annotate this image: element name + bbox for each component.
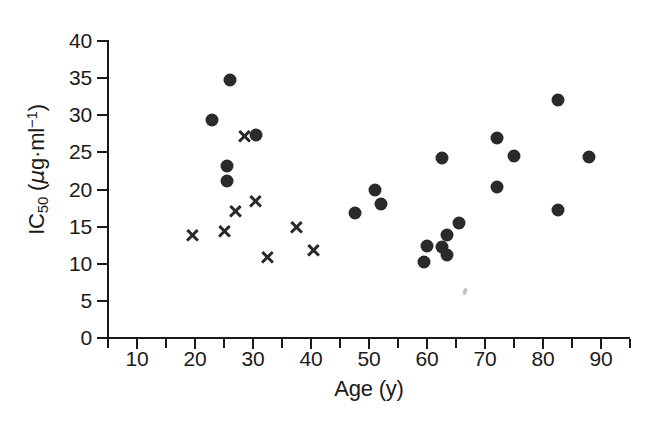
- y-tick-label-40: 40: [48, 30, 92, 51]
- plot-data-area: [108, 41, 630, 338]
- data-point-filled-circle: [441, 248, 454, 261]
- x-minor-tick-15: [165, 339, 167, 348]
- x-tick-label-90: 90: [578, 348, 624, 369]
- x-tick-label-60: 60: [404, 348, 450, 369]
- x-tick-label-10: 10: [114, 348, 160, 369]
- y-tick-40: [97, 40, 107, 42]
- x-tick-label-40: 40: [288, 348, 334, 369]
- data-point-filled-circle: [490, 180, 503, 193]
- y-axis-title-main: IC: [24, 213, 49, 235]
- y-tick-10: [97, 263, 107, 265]
- x-minor-tick-55: [397, 339, 399, 348]
- x-minor-tick-25: [223, 339, 225, 348]
- data-point-filled-circle: [220, 174, 233, 187]
- y-axis-title-mu: μ: [24, 170, 49, 184]
- y-axis-title-subscript: 50: [34, 197, 51, 213]
- data-point-cross: [237, 129, 252, 144]
- data-point-filled-circle: [441, 228, 454, 241]
- data-point-filled-circle: [583, 150, 596, 163]
- data-point-filled-circle: [220, 159, 233, 172]
- data-point-filled-circle: [223, 73, 236, 86]
- y-tick-label-25: 25: [48, 141, 92, 162]
- x-tick-label-50: 50: [346, 348, 392, 369]
- y-axis-title: IC50 (μg·ml−1): [20, 45, 55, 295]
- y-tick-label-35: 35: [48, 67, 92, 88]
- y-tick-label-5: 5: [48, 290, 92, 311]
- data-point-filled-circle: [435, 151, 448, 164]
- data-point-cross: [185, 228, 200, 243]
- y-axis-title-units: g·ml: [24, 128, 49, 170]
- x-tick-label-80: 80: [520, 348, 566, 369]
- data-point-cross: [217, 224, 232, 239]
- x-minor-tick-5: [107, 339, 109, 348]
- data-point-filled-circle: [551, 204, 564, 217]
- data-point-cross: [289, 220, 304, 235]
- data-point-filled-circle: [374, 197, 387, 210]
- data-point-cross: [228, 204, 243, 219]
- x-tick-label-30: 30: [230, 348, 276, 369]
- data-point-cross: [306, 243, 321, 258]
- y-axis-title-paren-open: (: [24, 184, 49, 197]
- y-tick-30: [97, 114, 107, 116]
- y-tick-5: [97, 300, 107, 302]
- y-tick-15: [97, 226, 107, 228]
- data-point-filled-circle: [206, 114, 219, 127]
- y-tick-label-0: 0: [48, 327, 92, 348]
- y-tick-label-20: 20: [48, 179, 92, 200]
- y-tick-label-10: 10: [48, 253, 92, 274]
- x-tick-label-20: 20: [172, 348, 218, 369]
- x-minor-tick-45: [339, 339, 341, 348]
- x-axis-title: Age (y): [108, 377, 630, 401]
- y-axis-title-paren-close: ): [24, 104, 49, 111]
- y-tick-label-15: 15: [48, 216, 92, 237]
- data-point-filled-circle: [418, 256, 431, 269]
- data-point-filled-circle: [452, 216, 465, 229]
- y-tick-25: [97, 151, 107, 153]
- x-minor-tick-85: [571, 339, 573, 348]
- data-point-cross: [248, 194, 263, 209]
- y-tick-label-30: 30: [48, 104, 92, 125]
- scatter-plot-figure: 0510152025303540 102030405060708090 IC50…: [0, 0, 646, 425]
- data-point-filled-circle: [421, 239, 434, 252]
- y-axis-title-exponent: −1: [23, 111, 40, 128]
- y-tick-0: [97, 337, 107, 339]
- x-minor-tick-35: [281, 339, 283, 348]
- data-point-filled-circle: [348, 206, 361, 219]
- data-point-filled-circle: [508, 150, 521, 163]
- data-point-filled-circle: [551, 94, 564, 107]
- data-point-filled-circle: [368, 184, 381, 197]
- y-tick-20: [97, 189, 107, 191]
- x-tick-label-70: 70: [462, 348, 508, 369]
- data-point-filled-circle: [490, 131, 503, 144]
- y-tick-35: [97, 77, 107, 79]
- x-minor-tick-75: [513, 339, 515, 348]
- x-minor-tick-65: [455, 339, 457, 348]
- x-minor-tick-95: [629, 339, 631, 348]
- data-point-cross: [260, 250, 275, 265]
